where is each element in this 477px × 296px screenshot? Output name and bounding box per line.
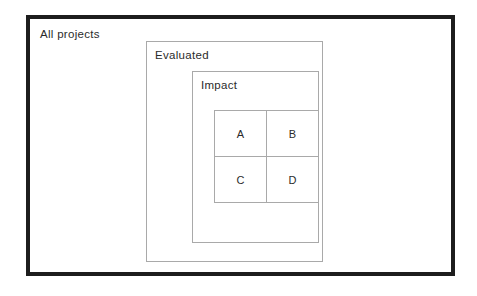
- set-impact: Impact A B C D: [192, 71, 319, 243]
- set-label-evaluated: Evaluated: [155, 49, 209, 61]
- set-label-impact: Impact: [201, 79, 237, 91]
- quadrant-cell-c: C: [215, 157, 267, 203]
- quadrant-cell-a: A: [215, 111, 267, 157]
- set-evaluated: Evaluated Impact A B C D: [146, 41, 323, 262]
- diagram-canvas: All projects Evaluated Impact A B C D: [0, 0, 477, 296]
- quadrant-grid: A B C D: [214, 110, 319, 203]
- set-label-all-projects: All projects: [40, 28, 100, 40]
- quadrant-cell-b: B: [267, 111, 319, 157]
- set-all-projects: All projects Evaluated Impact A B C D: [26, 15, 455, 276]
- quadrant-cell-d: D: [267, 157, 319, 203]
